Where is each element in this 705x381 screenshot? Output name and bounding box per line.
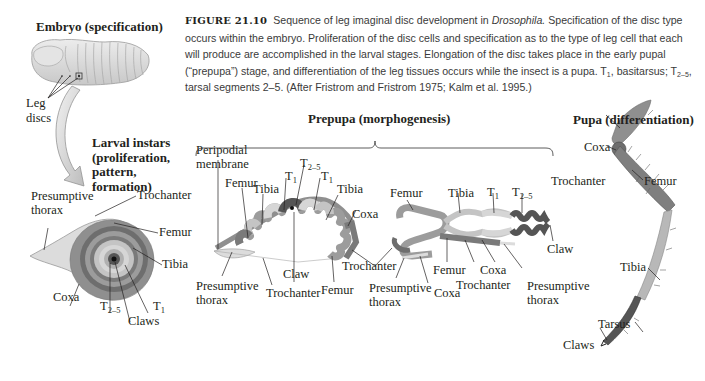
label-femur-b: Femur <box>321 284 354 297</box>
prepupa-bracket <box>196 141 553 156</box>
label-tibia-c: Tibia <box>448 187 474 200</box>
label-t1: T1 <box>153 300 165 313</box>
label-tibia-b: Tibia <box>337 183 363 196</box>
label-pupa-femur: Femur <box>644 175 677 188</box>
label-claws: Claws <box>128 315 159 328</box>
prepupa-title: Prepupa (morphogenesis) <box>308 111 450 126</box>
label-trochanter-c: Trochanter <box>456 279 510 292</box>
label-t2-5-c: T2–5 <box>512 186 532 199</box>
larval-title: Larval instars (proliferation, pattern, … <box>92 136 170 194</box>
prepupa-extended-illustration <box>394 193 553 283</box>
label-pupa-coxa: Coxa <box>584 141 610 154</box>
label-coxa-a: Coxa <box>352 208 378 221</box>
label-presumptive-thorax: Presumptive thorax <box>31 189 94 217</box>
label-pupa-tarsus: Tarsus <box>598 318 630 331</box>
label-presumptive-thorax-c: Presumptive thorax <box>527 279 590 307</box>
label-tibia-a: Tibia <box>253 183 279 196</box>
label-claw-a: Claw <box>283 268 309 281</box>
label-leg-discs: Leg discs <box>26 96 51 126</box>
label-t1-a: T1 <box>285 170 297 183</box>
label-trochanter-b: Trochanter <box>342 260 396 273</box>
label-t2-5: T2–5 <box>100 300 120 313</box>
label-trochanter-a: Trochanter <box>266 287 320 300</box>
label-t1-b: T1 <box>321 170 333 183</box>
label-pupa-trochanter: Trochanter <box>551 175 605 188</box>
label-pupa-claws: Claws <box>563 339 594 352</box>
label-coxa: Coxa <box>53 291 79 304</box>
pupal-leg-illustration <box>600 100 676 346</box>
label-femur: Femur <box>159 226 192 239</box>
label-peripodial-membrane: Peripodial membrane <box>196 143 249 171</box>
label-femur-c: Femur <box>390 187 423 200</box>
pupa-title: Pupa (differentiation) <box>573 112 694 127</box>
label-trochanter: Trochanter <box>137 189 191 202</box>
label-pupa-tibia: Tibia <box>620 261 646 274</box>
label-t1-c: T1 <box>487 186 499 199</box>
label-coxa-c: Coxa <box>480 264 506 277</box>
label-t2-5-a: T2–5 <box>300 157 320 170</box>
label-femur-e: Femur <box>433 264 466 277</box>
embryo-title: Embryo (specification) <box>36 19 163 34</box>
label-presumptive-thorax-b: Presumptive thorax <box>369 281 432 309</box>
label-claw-b: Claw <box>547 243 573 256</box>
label-tibia: Tibia <box>162 258 188 271</box>
label-presumptive-thorax-a: Presumptive thorax <box>196 279 259 307</box>
